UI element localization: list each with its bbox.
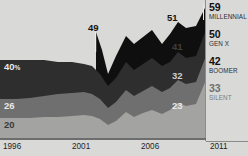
- x-axis-labels: 1996 2001 2006 2011: [0, 142, 248, 156]
- value-label-23: 23: [172, 100, 183, 111]
- leader-line-49: [95, 32, 96, 52]
- value-label-51: 51: [167, 12, 178, 23]
- legend-value-boomer: 42: [209, 56, 238, 67]
- value-label-49: 49: [88, 22, 99, 33]
- legend-label-millennial: MILLENNIAL: [209, 13, 247, 21]
- legend-label-boomer: BOOMER: [209, 67, 238, 75]
- x-tick-2001: 2001: [72, 142, 90, 151]
- legend-label-silent: SILENT: [209, 94, 232, 102]
- leader-line-59: [203, 4, 204, 20]
- legend-label-genx: GEN X: [209, 40, 229, 48]
- legend-value-millennial: 59: [209, 2, 247, 13]
- legend-value-genx: 50: [209, 29, 229, 40]
- x-tick-2011: 2011: [210, 142, 228, 151]
- chart-root: The Generations % who favor allowing gay…: [0, 0, 248, 156]
- legend-item-genx[interactable]: 50 GEN X: [209, 29, 229, 48]
- x-axis-line: [0, 138, 206, 140]
- value-label-26: 26: [4, 100, 15, 111]
- value-label-40: 40%: [4, 61, 20, 72]
- x-tick-2006: 2006: [141, 142, 159, 151]
- legend-item-silent[interactable]: 33 SILENT: [209, 83, 232, 102]
- legend-item-boomer[interactable]: 42 BOOMER: [209, 56, 238, 75]
- chart-legend: 59 MILLENNIAL 50 GEN X 42 BOOMER 33 SILE…: [209, 0, 248, 120]
- value-label-20: 20: [4, 119, 15, 130]
- value-label-32: 32: [172, 70, 183, 81]
- plot-right-rule: [205, 0, 206, 141]
- x-tick-1996: 1996: [3, 142, 21, 151]
- value-label-41: 41: [172, 41, 183, 52]
- legend-value-silent: 33: [209, 83, 232, 94]
- legend-item-millennial[interactable]: 59 MILLENNIAL: [209, 2, 247, 21]
